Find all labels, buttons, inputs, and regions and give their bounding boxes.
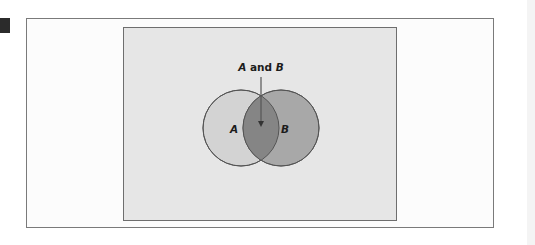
set-a-label: A [229, 123, 238, 135]
set-b-label: B [281, 123, 289, 135]
venn-diagram: A and B A B [0, 0, 535, 245]
intersection-label: A and B [237, 61, 284, 73]
